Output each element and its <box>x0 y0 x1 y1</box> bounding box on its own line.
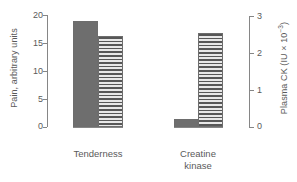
baseline-creatine-kinase <box>174 127 223 128</box>
group-label-creatine-kinase: Creatine kinase <box>153 148 243 172</box>
bar-creatine-kinase-ck[interactable] <box>198 33 223 127</box>
baseline-tenderness <box>73 127 123 128</box>
bar-tenderness-ck[interactable] <box>98 36 123 127</box>
group-label-tenderness: Tenderness <box>53 148 143 160</box>
chart-figure: Pain, arbitrary units 20 15 10 5 0 Plasm… <box>0 0 297 182</box>
bar-tenderness-pain[interactable] <box>73 21 98 127</box>
plot-area <box>0 0 297 182</box>
bar-creatine-kinase-pain[interactable] <box>174 119 198 127</box>
